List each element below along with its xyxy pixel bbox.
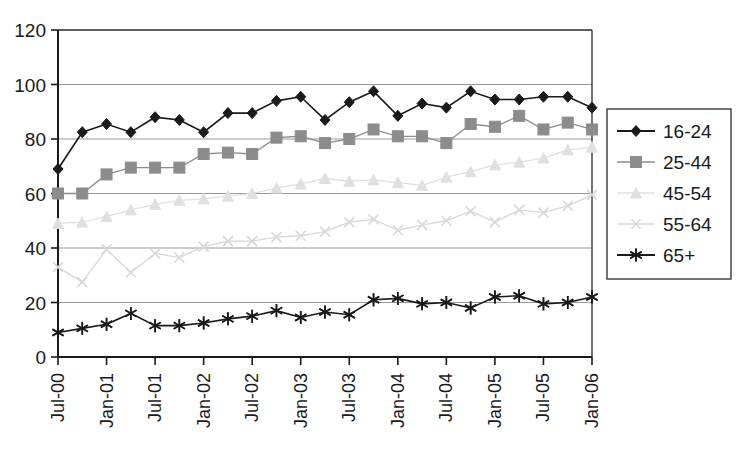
series-16-24 bbox=[53, 86, 597, 175]
marker-diamond bbox=[466, 86, 476, 97]
legend-label-25-44: 25-44 bbox=[663, 152, 712, 173]
marker-x bbox=[466, 206, 476, 216]
marker-x bbox=[563, 201, 573, 211]
marker-square bbox=[150, 162, 161, 173]
marker-square bbox=[271, 132, 282, 143]
x-tick-label: Jan-02 bbox=[194, 373, 214, 428]
marker-diamond bbox=[417, 98, 427, 109]
y-tick-label: 80 bbox=[25, 129, 46, 150]
data-series bbox=[52, 86, 597, 339]
marker-x bbox=[199, 242, 209, 252]
marker-diamond bbox=[344, 97, 354, 108]
series-45-54 bbox=[53, 142, 598, 229]
marker-square bbox=[295, 131, 306, 142]
marker-square bbox=[514, 110, 525, 121]
series-line-45-54 bbox=[58, 147, 592, 223]
x-tick-label: Jan-03 bbox=[291, 373, 311, 428]
marker-diamond bbox=[271, 95, 281, 106]
legend-label-65+: 65+ bbox=[663, 245, 695, 266]
marker-triangle bbox=[320, 173, 331, 184]
marker-square bbox=[125, 162, 136, 173]
y-tick-label: 100 bbox=[14, 75, 46, 96]
gridlines bbox=[58, 30, 592, 303]
marker-diamond bbox=[199, 127, 209, 138]
marker-diamond bbox=[247, 108, 257, 119]
marker-square bbox=[101, 169, 112, 180]
marker-square bbox=[465, 119, 476, 130]
marker-asterisk bbox=[465, 301, 476, 314]
legend-label-55-64: 55-64 bbox=[663, 214, 712, 235]
marker-triangle bbox=[538, 153, 549, 164]
x-tick-label: Jul-03 bbox=[339, 373, 359, 422]
marker-diamond bbox=[441, 102, 451, 113]
marker-triangle bbox=[465, 166, 476, 177]
marker-x bbox=[102, 244, 112, 254]
marker-diamond bbox=[126, 127, 136, 138]
x-tick-label: Jan-01 bbox=[97, 373, 117, 428]
x-tick-label: Jan-06 bbox=[582, 373, 602, 428]
marker-x bbox=[393, 225, 403, 235]
marker-diamond bbox=[538, 91, 548, 102]
x-axis-ticks bbox=[58, 357, 592, 365]
y-tick-label: 20 bbox=[25, 293, 46, 314]
x-tick-label: Jul-04 bbox=[436, 373, 456, 422]
marker-square bbox=[392, 131, 403, 142]
y-tick-label: 0 bbox=[35, 347, 46, 368]
marker-triangle bbox=[101, 211, 112, 222]
x-tick-label: Jul-05 bbox=[533, 373, 553, 422]
y-tick-label: 120 bbox=[14, 20, 46, 41]
legend-label-45-54: 45-54 bbox=[663, 183, 712, 204]
marker-diamond bbox=[77, 127, 87, 138]
x-tick-label: Jul-01 bbox=[145, 373, 165, 422]
chart-canvas: 020406080100120 Jul-00Jan-01Jul-01Jan-02… bbox=[0, 0, 739, 468]
marker-square bbox=[538, 124, 549, 135]
marker-diamond bbox=[490, 94, 500, 105]
marker-asterisk bbox=[271, 304, 282, 317]
marker-square bbox=[417, 131, 428, 142]
marker-square bbox=[368, 124, 379, 135]
marker-diamond bbox=[587, 102, 597, 113]
marker-diamond bbox=[223, 108, 233, 119]
x-tick-label: Jan-05 bbox=[485, 373, 505, 428]
marker-square bbox=[53, 188, 64, 199]
marker-square bbox=[562, 117, 573, 128]
y-axis-tick-labels: 020406080100120 bbox=[14, 20, 46, 368]
marker-square bbox=[174, 162, 185, 173]
marker-x bbox=[126, 268, 136, 278]
series-65+ bbox=[52, 289, 597, 339]
marker-x bbox=[490, 217, 500, 227]
marker-square bbox=[587, 124, 598, 135]
marker-square bbox=[344, 134, 355, 145]
marker-square bbox=[77, 188, 88, 199]
marker-square bbox=[631, 157, 642, 168]
marker-triangle bbox=[587, 142, 598, 153]
marker-square bbox=[320, 138, 331, 149]
x-tick-label: Jul-02 bbox=[242, 373, 262, 422]
y-tick-label: 60 bbox=[25, 184, 46, 205]
marker-square bbox=[247, 148, 258, 159]
marker-square bbox=[441, 138, 452, 149]
legend-label-16-24: 16-24 bbox=[663, 121, 712, 142]
marker-diamond bbox=[150, 112, 160, 123]
x-tick-label: Jul-00 bbox=[48, 373, 68, 422]
y-tick-label: 40 bbox=[25, 238, 46, 259]
marker-square bbox=[222, 147, 233, 158]
series-line-16-24 bbox=[58, 91, 592, 169]
marker-square bbox=[198, 148, 209, 159]
chart-legend: 16-2425-4445-5455-6465+ bbox=[607, 109, 731, 279]
marker-asterisk bbox=[295, 311, 306, 324]
marker-square bbox=[489, 121, 500, 132]
line-chart-figure: 020406080100120 Jul-00Jan-01Jul-01Jan-02… bbox=[0, 0, 739, 468]
marker-asterisk bbox=[125, 307, 136, 320]
marker-asterisk bbox=[586, 291, 597, 304]
x-axis-tick-labels: Jul-00Jan-01Jul-01Jan-02Jul-02Jan-03Jul-… bbox=[48, 373, 602, 428]
marker-diamond bbox=[53, 163, 63, 174]
x-tick-label: Jan-04 bbox=[388, 373, 408, 428]
marker-diamond bbox=[514, 94, 524, 105]
marker-diamond bbox=[102, 119, 112, 130]
marker-x bbox=[77, 277, 87, 287]
marker-diamond bbox=[174, 114, 184, 125]
marker-diamond bbox=[563, 91, 573, 102]
series-55-64 bbox=[53, 190, 597, 287]
